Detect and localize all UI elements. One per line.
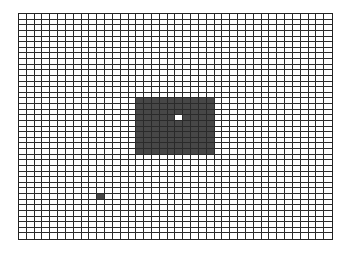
grid-cell[interactable] [89,233,97,239]
grid-cell[interactable] [324,233,332,239]
grid-cell[interactable] [152,233,160,239]
grid-cell[interactable] [121,233,129,239]
grid-cell[interactable] [293,233,301,239]
grid-cell[interactable] [129,233,137,239]
grid-cell[interactable] [105,233,113,239]
grid-cell[interactable] [113,233,121,239]
grid-cell[interactable] [50,233,58,239]
grid-cell[interactable] [82,233,90,239]
grid-cell[interactable] [246,233,254,239]
grid-cell[interactable] [309,233,317,239]
grid-cell[interactable] [19,233,27,239]
grid-cell[interactable] [183,233,191,239]
grid-cell[interactable] [136,233,144,239]
grid-cell[interactable] [35,233,43,239]
grid-cell[interactable] [191,233,199,239]
grid-cell[interactable] [74,233,82,239]
grid-cell[interactable] [42,233,50,239]
grid-cell[interactable] [66,233,74,239]
grid-cell[interactable] [144,233,152,239]
grid-cell[interactable] [277,233,285,239]
grid-cell[interactable] [160,233,168,239]
grid-cell[interactable] [285,233,293,239]
grid-cell[interactable] [58,233,66,239]
grid-cell[interactable] [316,233,324,239]
grid-cell[interactable] [269,233,277,239]
grid-cell[interactable] [175,233,183,239]
grid-cell[interactable] [168,233,176,239]
grid-cell[interactable] [262,233,270,239]
grid-cell[interactable] [27,233,35,239]
grid-cell[interactable] [97,233,105,239]
grid-cell[interactable] [230,233,238,239]
grid-cell[interactable] [301,233,309,239]
grid-cell[interactable] [238,233,246,239]
grid-cell[interactable] [199,233,207,239]
grid-cell[interactable] [207,233,215,239]
game-grid[interactable] [18,13,333,240]
grid-cell[interactable] [215,233,223,239]
grid-cell[interactable] [222,233,230,239]
grid-cell[interactable] [254,233,262,239]
